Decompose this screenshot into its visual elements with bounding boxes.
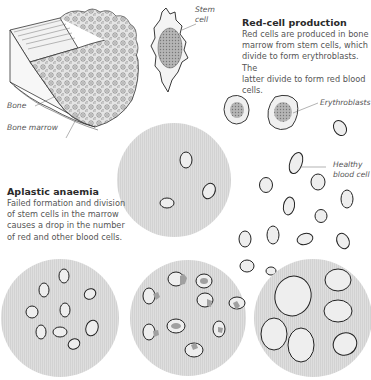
- healthy-blood-cell-label-line2: blood cell: [333, 170, 370, 180]
- abnormal-cells-sample: [130, 260, 246, 376]
- aplastic-anaemia-heading: Aplastic anaemia: [7, 186, 147, 198]
- aplastic-anaemia-line2: of stem cells in the marrow: [7, 209, 147, 220]
- healthy-blood-cell-label: Healthy blood cell: [333, 160, 370, 179]
- healthy-blood-cell-label-line1: Healthy: [333, 160, 370, 170]
- aplastic-anaemia-line4: of red and other blood cells.: [7, 232, 147, 243]
- aplastic-anaemia-line3: causes a drop in the number: [7, 220, 147, 231]
- stem-cell-label-line2: cell: [195, 15, 215, 25]
- aplastic-anaemia-section: Aplastic anaemia Failed formation and di…: [7, 186, 147, 243]
- red-cell-production-line1: Red cells are produced in bone: [242, 29, 371, 40]
- bone-cross-section: [10, 9, 138, 138]
- red-cell-production-line3: divide to form erythroblasts. The: [242, 51, 371, 73]
- bone-marrow-label: Bone marrow: [7, 123, 58, 133]
- aplastic-anaemia-line1: Failed formation and division: [7, 198, 147, 209]
- red-cell-production-line4: latter divide to form red blood cells.: [242, 74, 371, 96]
- healthy-blood-cells: [239, 118, 353, 275]
- red-cell-production-line2: marrow from stem cells, which: [242, 40, 371, 51]
- red-cell-production-section: Red-cell production Red cells are produc…: [242, 17, 371, 96]
- stem-cell-illustration: [151, 8, 196, 92]
- erythroblast-cells: [224, 95, 318, 129]
- erythroblasts-label: Erythroblasts: [320, 98, 370, 108]
- red-cell-production-heading: Red-cell production: [242, 17, 371, 29]
- stem-cell-label-line1: Stem: [195, 5, 215, 15]
- stem-cell-label: Stem cell: [195, 5, 215, 24]
- bone-label: Bone: [7, 101, 26, 111]
